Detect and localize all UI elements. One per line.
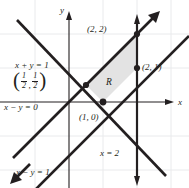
right-paren: ) <box>39 72 46 90</box>
fraction-one-half-first: 1 2 <box>21 72 27 91</box>
x-axis-label-y: y <box>60 6 64 15</box>
label-x-equals-2: x = 2 <box>100 149 119 158</box>
point-1-0 <box>100 99 107 106</box>
point-half-half <box>83 82 89 88</box>
fraction-one-half-second: 1 2 <box>32 72 38 91</box>
label-x-minus-y-equals-0: x − y = 0 <box>4 103 38 112</box>
point-2-2 <box>134 31 140 37</box>
comma-separator: , <box>29 81 31 91</box>
fraction-numerator: 1 <box>21 72 27 80</box>
left-paren: ( <box>13 72 20 90</box>
label-point-2-2: (2, 2) <box>87 25 107 34</box>
region-label-R: R <box>106 78 112 88</box>
label-x-minus-y-equals-1: x − y = 1 <box>16 168 50 177</box>
fraction-denominator: 2 <box>32 82 38 90</box>
figure-container: x y x + y = 1 x − y = 0 x − y = 1 x = 2 … <box>0 0 189 188</box>
label-point-2-1: (2, 1) <box>142 63 162 72</box>
line-x-plus-y-equals-1 <box>17 20 166 176</box>
point-2-1 <box>134 65 140 71</box>
line-x-minus-y-equals-1 <box>10 36 189 188</box>
label-point-half-half: ( 1 2 , 1 2 ) <box>13 72 46 91</box>
y-axis-label-x: x <box>178 98 182 107</box>
fraction-numerator: 1 <box>32 72 38 80</box>
label-point-1-0: (1, 0) <box>79 113 99 122</box>
fraction-denominator: 2 <box>21 82 27 90</box>
